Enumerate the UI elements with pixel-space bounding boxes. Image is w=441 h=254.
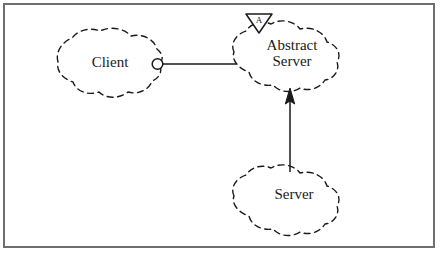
diagram-canvas <box>0 0 441 254</box>
figure-root: Client Abstract Server Server A <box>0 0 441 254</box>
node-label-server: Server <box>262 186 326 202</box>
node-label-client: Client <box>78 54 142 70</box>
node-label-abstract-server: Abstract Server <box>246 37 338 69</box>
interface-socket-circle[interactable] <box>152 59 163 70</box>
abstract-class-marker-letter: A <box>251 15 267 25</box>
